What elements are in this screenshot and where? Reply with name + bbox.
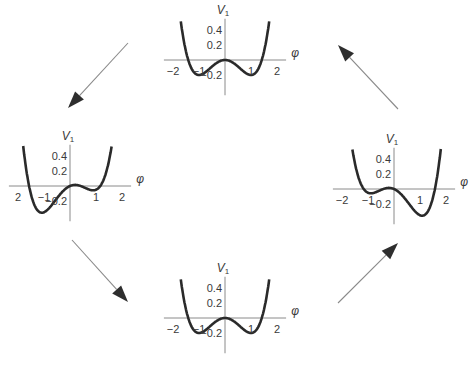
right-y-tick-label: −0.2 xyxy=(369,198,391,210)
bottom-y-tick-label: 0.2 xyxy=(207,297,222,309)
arrow-right-to-top xyxy=(350,57,398,109)
right-x-tick-label: 2 xyxy=(443,194,449,206)
arrow-top-to-left xyxy=(80,43,128,96)
left-y-tick-label: 0.4 xyxy=(52,150,67,162)
top-y-axis-label: V1 xyxy=(217,3,230,18)
bottom-x-tick-label: 2 xyxy=(274,323,280,335)
arrow-bottom-to-right xyxy=(338,255,386,303)
arrow-left-to-bottom xyxy=(72,240,117,289)
left-y-axis-label: V1 xyxy=(62,129,75,144)
right-y-tick-label: 0.4 xyxy=(376,153,391,165)
left-y-tick-label: 0.2 xyxy=(52,165,67,177)
right-x-tick-label: −2 xyxy=(336,194,349,206)
top-y-axis-subscript: 1 xyxy=(225,9,230,18)
right-y-tick-label: 0.2 xyxy=(376,168,391,180)
top-x-tick-label: −2 xyxy=(167,65,180,77)
bottom-x-tick-label: −2 xyxy=(167,323,180,335)
right-y-axis-label: V1 xyxy=(386,132,399,147)
bottom-y-tick-label: −0.2 xyxy=(200,327,222,339)
left-y-tick-label: −0.2 xyxy=(45,195,67,207)
top-y-tick-label: −0.2 xyxy=(200,69,222,81)
left-x-tick-label: 2 xyxy=(15,191,21,203)
left-x-axis-label: φ xyxy=(136,172,144,186)
cycle-diagram: −2−1120.40.2−0.2V1φ2−1120.40.2−0.2V1φ−2−… xyxy=(0,0,472,365)
left-x-tick-label: 1 xyxy=(93,191,99,203)
top-y-tick-label: 0.4 xyxy=(207,24,222,36)
left-x-tick-label: 2 xyxy=(119,191,125,203)
top-x-tick-label: 2 xyxy=(274,65,280,77)
top-x-tick-label: 1 xyxy=(248,65,254,77)
right-y-axis-subscript: 1 xyxy=(394,138,399,147)
top-y-tick-label: 0.2 xyxy=(207,39,222,51)
bottom-x-axis-label: φ xyxy=(291,304,299,318)
bottom-y-tick-label: 0.4 xyxy=(207,282,222,294)
bottom-y-axis-subscript: 1 xyxy=(225,267,230,276)
left-y-axis-subscript: 1 xyxy=(70,135,75,144)
top-x-axis-label: φ xyxy=(291,46,299,60)
right-x-tick-label: 1 xyxy=(417,194,423,206)
bottom-y-axis-label: V1 xyxy=(217,261,230,276)
bottom-x-tick-label: 1 xyxy=(248,323,254,335)
right-x-axis-label: φ xyxy=(460,175,468,189)
